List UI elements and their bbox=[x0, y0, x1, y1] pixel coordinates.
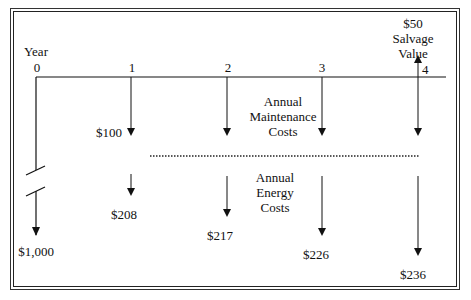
energy-amount-year1: $208 bbox=[111, 207, 137, 222]
arrow-down-icon bbox=[223, 128, 231, 136]
maintenance-label-line3: Costs bbox=[269, 124, 298, 139]
year-tick-3: 3 bbox=[319, 60, 326, 75]
energy-label-line1: Annual bbox=[256, 170, 294, 185]
arrow-down-icon bbox=[223, 209, 231, 217]
energy-label-line2: Energy bbox=[256, 185, 293, 200]
axis-label-year: Year bbox=[24, 44, 48, 59]
arrow-down-icon bbox=[414, 128, 422, 136]
energy-amount-year4: $236 bbox=[400, 267, 426, 282]
arrow-down-icon bbox=[127, 188, 135, 196]
arrow-down-icon bbox=[127, 128, 135, 136]
energy-label-line3: Costs bbox=[261, 200, 290, 215]
year-tick-4: 4 bbox=[422, 62, 429, 77]
salvage-label-line2: Value bbox=[398, 46, 428, 61]
year-tick-0: 0 bbox=[34, 60, 41, 75]
arrow-down-icon bbox=[32, 227, 40, 236]
arrow-down-icon bbox=[414, 248, 422, 256]
year-tick-1: 1 bbox=[129, 60, 136, 75]
initial-cost-arrow bbox=[26, 77, 45, 236]
energy-amount-year3: $226 bbox=[303, 247, 329, 262]
salvage-amount: $50 bbox=[403, 16, 423, 31]
energy-amount-year2: $217 bbox=[207, 228, 233, 243]
initial-cost-amount: $1,000 bbox=[18, 244, 54, 259]
salvage-label-line1: Salvage bbox=[392, 31, 433, 46]
year-tick-2: 2 bbox=[225, 60, 232, 75]
arrow-down-icon bbox=[318, 128, 326, 136]
maintenance-amount: $100 bbox=[96, 125, 122, 140]
maintenance-label-line1: Annual bbox=[264, 94, 302, 109]
maintenance-label-line2: Maintenance bbox=[249, 109, 316, 124]
arrow-down-icon bbox=[318, 228, 326, 236]
